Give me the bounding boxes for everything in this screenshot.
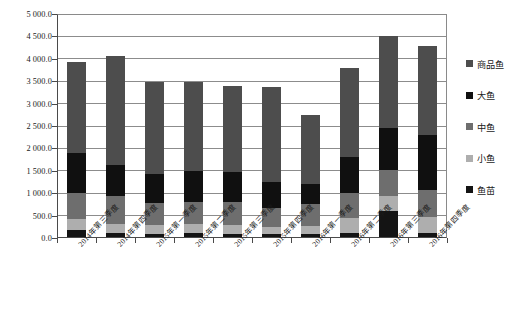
x-axis-tick — [447, 238, 448, 243]
stacked-bar-chart: 0.0500.01 000.01 500.02 000.02 500.03 00… — [0, 0, 529, 317]
y-axis-tick-label: 3 500.0 — [0, 77, 52, 86]
x-label-slot: 2016年第四季度 — [408, 238, 447, 317]
x-label-slot: 2015年第一季度 — [135, 238, 174, 317]
x-label-slot: 2016年第一季度 — [291, 238, 330, 317]
x-label-slot: 2015年第二季度 — [174, 238, 213, 317]
legend-label: 大鱼 — [477, 88, 495, 102]
legend-swatch — [466, 60, 473, 67]
legend-item[interactable]: 商品鱼 — [466, 48, 529, 80]
y-axis-tick-label: 5 000.0 — [0, 10, 52, 19]
y-axis-tick-label: 3 000.0 — [0, 99, 52, 108]
x-axis-labels: 2014年第三季度2014年第四季度2015年第一季度2015年第二季度2015… — [57, 238, 447, 317]
legend-label: 鱼苗 — [477, 183, 495, 197]
legend-item[interactable]: 小鱼 — [466, 143, 529, 175]
legend-item[interactable]: 大鱼 — [466, 80, 529, 112]
chart-legend: 商品鱼大鱼中鱼小鱼鱼苗 — [466, 48, 529, 206]
legend-item[interactable]: 鱼苗 — [466, 174, 529, 206]
y-axis-tick-label: 1 000.0 — [0, 189, 52, 198]
x-label-slot: 2016年第二季度 — [330, 238, 369, 317]
legend-label: 中鱼 — [477, 120, 495, 134]
x-label-slot: 2014年第三季度 — [57, 238, 96, 317]
x-label-slot: 2015年第三季度 — [213, 238, 252, 317]
y-axis-tick-label: 0.0 — [0, 234, 52, 243]
y-axis-tick-label: 2 000.0 — [0, 144, 52, 153]
x-label-slot: 2016年第三季度 — [369, 238, 408, 317]
x-label-slot: 2015年第四季度 — [252, 238, 291, 317]
legend-swatch — [466, 123, 473, 130]
legend-label: 商品鱼 — [477, 57, 505, 71]
y-axis-tick-label: 4 500.0 — [0, 32, 52, 41]
legend-swatch — [466, 92, 473, 99]
y-axis-tick-label: 500.0 — [0, 211, 52, 220]
y-axis-tick-label: 4 000.0 — [0, 54, 52, 63]
legend-swatch — [466, 186, 473, 193]
x-label-slot: 2014年第四季度 — [96, 238, 135, 317]
legend-label: 小鱼 — [477, 151, 495, 165]
y-axis-tick-label: 1 500.0 — [0, 166, 52, 175]
legend-item[interactable]: 中鱼 — [466, 111, 529, 143]
y-axis-tick-label: 2 500.0 — [0, 122, 52, 131]
legend-swatch — [466, 155, 473, 162]
